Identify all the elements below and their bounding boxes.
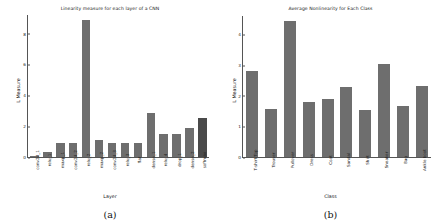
y-tick-b-0: 0 <box>238 155 243 160</box>
chart-panel-b: Average Nonlinearity for Each Class L Me… <box>220 0 441 220</box>
x-tick-a-0: conv2d_1 <box>30 157 39 165</box>
bar-b-9 <box>416 86 428 157</box>
bar-series-a <box>28 15 209 157</box>
bar-a-4 <box>82 20 91 157</box>
bar-b-7 <box>378 64 390 157</box>
x-tick-a-10: relu_4 <box>159 157 168 165</box>
x-tick-a-3: conv2d_2 <box>69 157 78 165</box>
x-tick-b-0: T-shirt/Top <box>246 157 258 165</box>
y-tick-a-4: 4 <box>23 93 28 98</box>
x-tick-a-6: conv2d_3 <box>108 157 117 165</box>
x-tick-a-4: relu_2 <box>82 157 91 165</box>
bar-b-2 <box>284 21 296 157</box>
bar-a-9 <box>147 113 156 157</box>
chart-title-a: Linearity measure for each layer of a CN… <box>0 6 220 11</box>
x-axis-ticks-b: T-shirt/TopTrouserPulloverDressCoatSanda… <box>243 157 431 199</box>
bar-b-0 <box>246 71 258 157</box>
panel-caption-b: (b) <box>220 209 441 220</box>
y-tick-b-1: 1 <box>238 124 243 129</box>
x-axis-label-a: Layer <box>0 194 220 199</box>
x-tick-a-2: maxp_1 <box>56 157 65 165</box>
x-axis-ticks-a: conv2d_1relu_1maxp_1conv2d_2relu_2maxp_2… <box>28 157 209 199</box>
x-tick-a-9: dense_1 <box>147 157 156 165</box>
y-tick-a-8: 8 <box>23 31 28 36</box>
x-tick-a-8: flat <box>134 157 143 165</box>
bar-b-5 <box>340 87 352 158</box>
bar-b-1 <box>265 109 277 157</box>
x-tick-b-6: Shirt <box>359 157 371 165</box>
x-tick-b-8: Bag <box>397 157 409 165</box>
x-tick-b-5: Sandal <box>340 157 352 165</box>
x-tick-b-4: Coat <box>322 157 334 165</box>
y-tick-b-2: 2 <box>238 93 243 98</box>
x-tick-a-5: maxp_2 <box>95 157 104 165</box>
plot-area-b: T-shirt/TopTrouserPulloverDressCoatSanda… <box>242 16 431 158</box>
x-tick-b-7: Sneaker <box>378 157 390 165</box>
x-tick-a-11: drop_1 <box>172 157 181 165</box>
plot-area-a: conv2d_1relu_1maxp_1conv2d_2relu_2maxp_2… <box>27 15 209 158</box>
x-tick-a-7: relu_3 <box>121 157 130 165</box>
bar-b-6 <box>359 110 371 157</box>
bar-a-8 <box>134 143 143 157</box>
bar-b-3 <box>303 102 315 157</box>
y-tick-a-2: 2 <box>23 124 28 129</box>
bar-series-b <box>243 16 431 157</box>
bar-b-4 <box>322 99 334 157</box>
chart-panel-a: Linearity measure for each layer of a CN… <box>0 0 220 220</box>
x-tick-a-1: relu_1 <box>43 157 52 165</box>
x-axis-label-b: Class <box>220 194 441 199</box>
x-tick-a-13: softmax <box>198 157 207 165</box>
y-tick-a-6: 6 <box>23 62 28 67</box>
x-tick-b-1: Trouser <box>265 157 277 165</box>
y-tick-b-4: 4 <box>238 32 243 37</box>
panel-caption-a: (a) <box>0 209 220 220</box>
y-tick-b-3: 3 <box>238 63 243 68</box>
y-axis-label-a: L Measure <box>16 61 21 121</box>
x-tick-b-3: Dress <box>303 157 315 165</box>
bar-b-8 <box>397 106 409 157</box>
y-tick-a-0: 0 <box>23 155 28 160</box>
y-axis-label-b: L Measure <box>232 61 237 121</box>
x-tick-b-2: Pullover <box>284 157 296 165</box>
x-tick-b-9: Ankle boot <box>416 157 428 165</box>
chart-title-b: Average Nonlinearity for Each Class <box>220 6 441 11</box>
figure-container: Linearity measure for each layer of a CN… <box>0 0 441 220</box>
x-tick-a-12: dense_2 <box>185 157 194 165</box>
